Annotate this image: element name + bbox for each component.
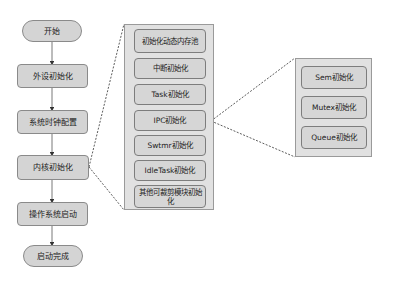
node-kernel-init: 内核初始化 (17, 155, 89, 180)
sub-sem-init: Sem初始化 (301, 66, 367, 89)
sub-swtmr-init: Swtmr初始化 (134, 135, 206, 156)
node-os-start: 操作系统启动 (17, 202, 88, 226)
zoom-line-kernel-bottom (89, 167, 124, 210)
sub-memory-pool-init: 初始化动态内存池 (134, 29, 206, 53)
sub-idletask-init: IdleTask初始化 (134, 160, 206, 181)
sub-optional-modules-init: 其他可裁剪模块初始化 (134, 185, 206, 208)
sub-task-init: Task初始化 (134, 84, 206, 105)
node-peripheral-init: 外设初始化 (17, 64, 88, 88)
ipc-init-detail-panel: Sem初始化 Mutex初始化 Queue初始化 (295, 58, 372, 157)
sub-mutex-init: Mutex初始化 (301, 96, 367, 119)
node-clock-config: 系统时钟配置 (17, 110, 88, 134)
sub-interrupt-init: 中断初始化 (134, 58, 206, 79)
node-start: 开始 (22, 20, 82, 42)
sub-queue-init: Queue初始化 (301, 126, 367, 149)
kernel-init-detail-panel: 初始化动态内存池 中断初始化 Task初始化 IPC初始化 Swtmr初始化 I… (124, 24, 214, 210)
sub-ipc-init: IPC初始化 (134, 110, 206, 131)
zoom-line-ipc-top (211, 58, 295, 121)
zoom-line-ipc-bottom (211, 121, 295, 157)
node-boot-complete: 启动完成 (23, 245, 83, 267)
zoom-line-kernel-top (89, 24, 124, 167)
